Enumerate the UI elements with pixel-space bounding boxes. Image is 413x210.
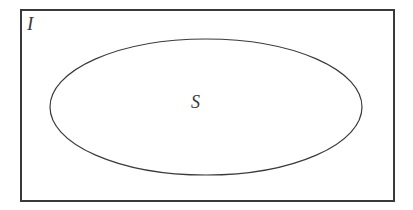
- subset-ellipse: [50, 39, 362, 175]
- subset-label: S: [191, 93, 200, 111]
- universal-set-label: I: [27, 14, 33, 33]
- set-diagram-figure: I S: [0, 0, 413, 210]
- set-diagram-canvas: [0, 0, 413, 210]
